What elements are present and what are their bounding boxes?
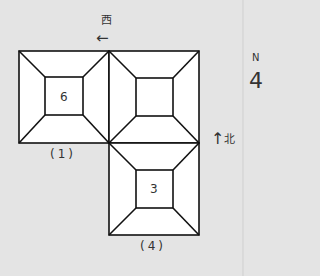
- room-2: [109, 51, 199, 143]
- west-label: 西: [101, 15, 112, 26]
- west-arrow-icon: ←: [96, 31, 109, 46]
- room-1-number: 6: [60, 91, 68, 103]
- room-3-number: 3: [150, 183, 158, 195]
- north-arrow-icon: ↑: [211, 131, 224, 147]
- compass-letter: N: [252, 53, 259, 63]
- north-label: 北: [224, 134, 235, 145]
- compass-icon: 4: [249, 70, 263, 92]
- room-3-caption: (4): [140, 240, 166, 252]
- room-1-caption: (1): [50, 148, 76, 160]
